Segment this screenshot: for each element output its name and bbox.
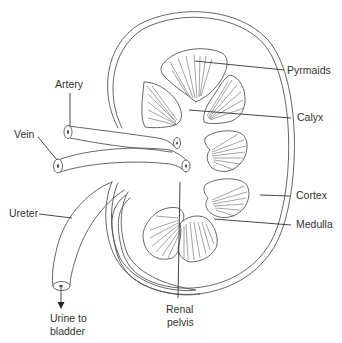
- label-medulla: Medulla: [296, 218, 333, 230]
- pyramid-middle-right: [205, 131, 247, 172]
- renal-artery: [64, 126, 181, 153]
- label-vein: Vein: [14, 128, 35, 140]
- kidney-illustration: Artery Vein Ureter Urine to bladder Pyrm…: [0, 0, 342, 343]
- vein-leader: [38, 137, 57, 160]
- label-renal-line2: pelvis: [167, 316, 194, 328]
- label-cortex: Cortex: [296, 189, 328, 201]
- label-urine-line2: bladder: [50, 325, 86, 337]
- pyramid-lower-right: [204, 179, 249, 218]
- ureter-leader: [39, 214, 72, 218]
- label-artery: Artery: [55, 78, 84, 90]
- label-calyx: Calyx: [297, 111, 324, 123]
- pyramid-bottom-left: [143, 208, 184, 260]
- kidney-diagram: Artery Vein Ureter Urine to bladder Pyrm…: [0, 0, 342, 343]
- cortex-leader: [260, 195, 290, 196]
- label-renal-line1: Renal: [166, 303, 193, 315]
- label-urine-line1: Urine to: [50, 312, 87, 324]
- pyramid-bottom-center: [178, 216, 217, 262]
- pyramid-upper-left: [142, 82, 182, 128]
- arrow-down-icon: [58, 302, 65, 309]
- label-ureter: Ureter: [9, 207, 39, 219]
- label-pyramids: Pyrmaids: [287, 64, 331, 76]
